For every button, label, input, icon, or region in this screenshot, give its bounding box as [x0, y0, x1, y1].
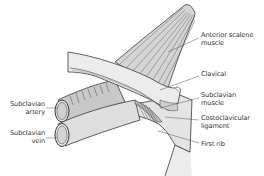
label-line: muscle — [201, 40, 253, 48]
label-subclavian-vein: Subclavian vein — [10, 130, 45, 145]
label-line: Clavical — [201, 71, 226, 79]
label-anterior-scalene-muscle: Anterior scalene muscle — [201, 32, 253, 47]
thoracic-outlet-illustration — [0, 0, 264, 176]
label-subclavian-artery: Subclavian artery — [10, 101, 45, 116]
label-clavical: Clavical — [201, 71, 226, 79]
label-costoclavicular-ligament: Costoclavicular ligament — [201, 115, 250, 130]
label-line: artery — [10, 109, 45, 117]
label-first-rib: First rib — [201, 141, 225, 149]
label-line: muscle — [201, 100, 236, 108]
anatomy-diagram: Anterior scalene muscle Clavical Subclav… — [0, 0, 264, 176]
label-line: First rib — [201, 141, 225, 149]
label-line: vein — [10, 138, 45, 146]
label-subclavian-muscle: Subclavian muscle — [201, 92, 236, 107]
label-line: ligament — [201, 123, 250, 131]
